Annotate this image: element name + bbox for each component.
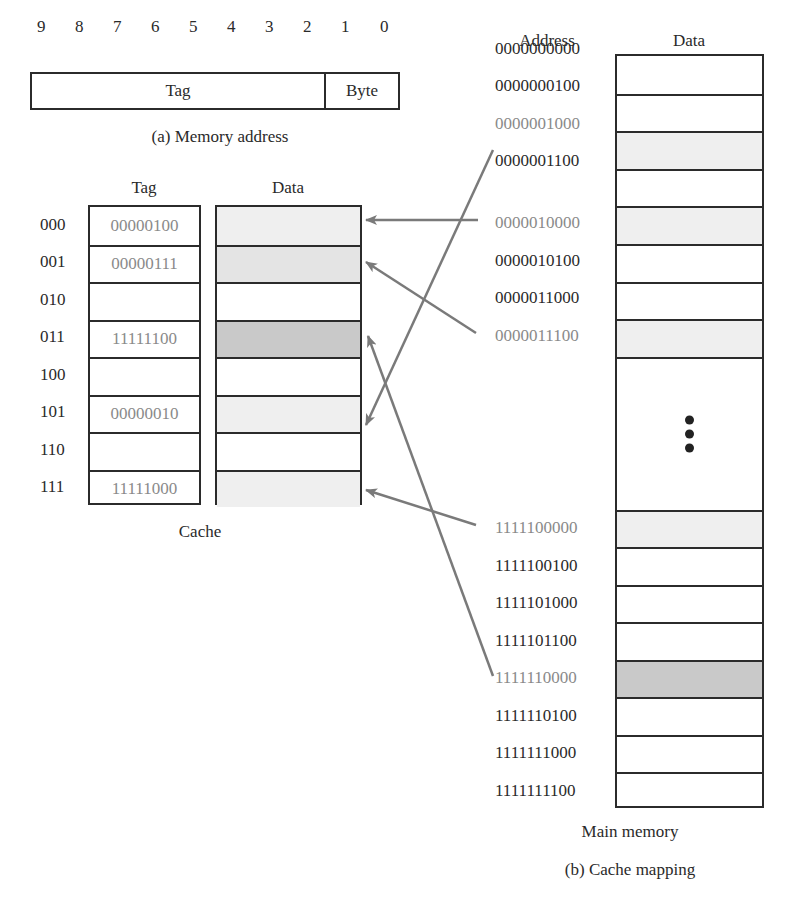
arrow-1111100000-to-111: [366, 490, 476, 525]
cache-tag-cell: 00000100: [90, 207, 199, 245]
cache-data-cell: [217, 282, 360, 320]
bit-label-3: 3: [265, 17, 274, 37]
cache-index-010: 010: [40, 290, 66, 310]
bit-label-1: 1: [341, 17, 350, 37]
cache-data-cell: [217, 320, 360, 358]
memory-address-label: 0000011100: [495, 326, 579, 346]
memory-address-label: 0000011000: [495, 288, 579, 308]
memory-ellipsis-block: [617, 357, 762, 510]
memory-data-cell: [617, 697, 762, 735]
cache-tag-cell: 11111000: [90, 470, 199, 508]
memory-address-label: 0000000000: [495, 39, 580, 59]
memory-data-cell: [617, 585, 762, 623]
address-field-box: Tag Byte: [30, 72, 400, 110]
bit-label-7: 7: [113, 17, 122, 37]
cache-data-cell: [217, 432, 360, 470]
bit-label-2: 2: [303, 17, 312, 37]
cache-tag-value: 11111100: [90, 329, 199, 349]
cache-tag-value: 11111000: [90, 479, 199, 499]
memory-data-cell: [617, 131, 762, 169]
cache-tag-column: 00000100 00000111 11111100 00000010 1111…: [88, 205, 201, 505]
cache-index-100: 100: [40, 365, 66, 385]
cache-data-cell: [217, 357, 360, 395]
byte-field-label: Byte: [326, 81, 398, 101]
memory-address-label: 0000001000: [495, 114, 580, 134]
cache-tag-cell: 11111100: [90, 320, 199, 358]
byte-field: Byte: [326, 74, 398, 108]
cache-caption: Cache: [150, 522, 250, 542]
cache-index-110: 110: [40, 440, 65, 460]
tag-field: Tag: [32, 74, 326, 108]
cache-data-cell: [217, 395, 360, 433]
cache-data-cell: [217, 470, 360, 508]
memory-data-cell: [617, 772, 762, 805]
memory-data-cell: [617, 547, 762, 585]
memory-address-label: 1111100100: [495, 556, 577, 576]
memory-address-label: 0000001100: [495, 151, 579, 171]
memory-address-label: 1111110000: [495, 668, 577, 688]
memory-data-cell: [617, 510, 762, 548]
memory-data-cell: [617, 282, 762, 320]
cache-data-cell: [217, 245, 360, 283]
memory-address-label: 1111111100: [495, 781, 576, 801]
memory-data-cell: [617, 622, 762, 660]
arrow-0000001000-to-101: [366, 150, 493, 425]
cache-index-001: 001: [40, 252, 66, 272]
bit-label-6: 6: [151, 17, 160, 37]
memory-data-cell: [617, 660, 762, 698]
memory-data-cell: [617, 94, 762, 132]
bit-label-8: 8: [75, 17, 84, 37]
memory-address-label: 1111100000: [495, 518, 577, 538]
arrow-0000011100-to-001: [366, 262, 476, 333]
memory-data-cell: [617, 169, 762, 207]
cache-data-cell: [217, 207, 360, 245]
arrow-1111110000-to-011: [368, 336, 493, 676]
memory-data-cell: [617, 319, 762, 357]
cache-tag-cell: 00000111: [90, 245, 199, 283]
cache-data-column: [215, 205, 362, 505]
cache-tag-value: 00000010: [90, 404, 199, 424]
cache-index-101: 101: [40, 402, 66, 422]
memory-address-label: 1111111000: [495, 743, 576, 763]
cache-tag-cell: [90, 357, 199, 395]
cache-tag-value: 00000111: [90, 254, 199, 274]
cache-tag-cell: [90, 432, 199, 470]
memory-address-caption: (a) Memory address: [100, 127, 340, 147]
cache-mapping-caption: (b) Cache mapping: [520, 860, 740, 880]
tag-field-label: Tag: [32, 81, 324, 101]
cache-tag-cell: [90, 282, 199, 320]
cache-index-011: 011: [40, 327, 65, 347]
memory-address-label: 1111110100: [495, 706, 577, 726]
main-memory-caption: Main memory: [540, 822, 720, 842]
bit-label-4: 4: [227, 17, 236, 37]
bit-label-0: 0: [380, 17, 389, 37]
memory-data-header: Data: [615, 31, 763, 51]
bit-label-9: 9: [37, 17, 46, 37]
memory-address-label: 1111101100: [495, 631, 577, 651]
bit-label-5: 5: [189, 17, 198, 37]
cache-data-header: Data: [215, 178, 361, 198]
cache-tag-cell: 00000010: [90, 395, 199, 433]
memory-address-label: 1111101000: [495, 593, 577, 613]
memory-data-cell: [617, 244, 762, 282]
cache-tag-value: 00000100: [90, 216, 199, 236]
cache-tag-header: Tag: [88, 178, 200, 198]
memory-address-label: 0000010000: [495, 213, 580, 233]
cache-index-000: 000: [40, 215, 66, 235]
vertical-ellipsis-icon: [685, 411, 695, 458]
memory-data-cell: [617, 206, 762, 244]
memory-data-cell: [617, 56, 762, 94]
main-memory-data-column: [615, 54, 764, 808]
memory-address-label: 0000000100: [495, 76, 580, 96]
memory-data-cell: [617, 735, 762, 773]
cache-index-111: 111: [40, 477, 64, 497]
memory-address-label: 0000010100: [495, 251, 580, 271]
